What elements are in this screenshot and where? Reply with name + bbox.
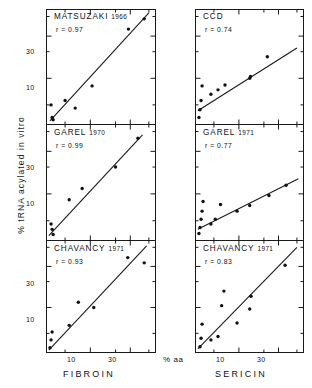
data-point: [249, 75, 252, 78]
data-point: [51, 118, 54, 121]
y-tick-label-10-mid-left: 10: [26, 200, 34, 207]
panel-author: CHAVANCY: [54, 244, 105, 253]
x-axis-unit-label: % aa: [163, 355, 184, 364]
data-point: [126, 256, 129, 259]
data-point: [68, 324, 71, 327]
data-point: [216, 88, 219, 91]
data-point: [143, 261, 146, 264]
data-point: [199, 99, 202, 102]
regression-line: [198, 179, 299, 230]
panel-author: MATSUZAKI: [54, 12, 108, 21]
x-tick-label-10-fibroin: 10: [67, 356, 75, 363]
data-point: [222, 289, 225, 292]
panel-year: 1971: [238, 129, 254, 136]
data-point: [50, 228, 53, 231]
data-point: [197, 232, 200, 235]
panel-r-garel-1970-fibroin: r = 0.99: [56, 142, 83, 149]
plots-svg: [0, 0, 312, 388]
data-point: [216, 335, 219, 338]
panel-r-garel-1971-sericin: r = 0.77: [205, 142, 232, 149]
panel-caption-matsuzaki-fibroin: MATSUZAKI1966: [54, 12, 127, 21]
data-point: [209, 93, 212, 96]
data-point: [235, 321, 238, 324]
data-point: [198, 345, 201, 348]
data-point: [114, 165, 117, 168]
column-title-fibroin: FIBROIN: [63, 369, 115, 379]
data-point: [50, 330, 53, 333]
panel-author: GAREL: [54, 128, 86, 137]
y-tick-label-30-mid-left: 30: [26, 164, 34, 171]
data-point: [200, 84, 203, 87]
data-point: [220, 304, 223, 307]
panel-author: GAREL: [203, 128, 235, 137]
data-point: [49, 103, 52, 106]
panel-year: 1971: [257, 245, 273, 252]
data-point: [201, 200, 204, 203]
data-point: [209, 338, 212, 341]
data-point: [198, 226, 201, 229]
x-tick-label-30-fibroin: 30: [108, 356, 116, 363]
y-tick-label-10-top-left: 10: [26, 84, 34, 91]
data-point: [63, 99, 66, 102]
panel-r-chavancy-1971-fibroin: r = 0.93: [56, 258, 83, 265]
data-point: [127, 27, 130, 30]
data-point: [283, 263, 286, 266]
figure-container: % tRNA acylated in vitro MATSUZAKI1966 r…: [0, 0, 312, 388]
data-point: [68, 198, 71, 201]
data-point: [209, 222, 212, 225]
panel-caption-garel-1971-sericin: GAREL1971: [203, 128, 254, 137]
data-point: [267, 194, 270, 197]
data-point: [248, 307, 251, 310]
data-point: [249, 295, 252, 298]
panel-caption-ccd-sericin: CCD: [203, 12, 226, 21]
x-tick-label-10-sericin: 10: [216, 356, 224, 363]
regression-line: [49, 135, 143, 236]
panel-caption-chavancy-1971-fibroin: CHAVANCY1971: [54, 244, 124, 253]
data-point: [197, 116, 200, 119]
data-point: [143, 17, 146, 20]
data-point: [49, 338, 52, 341]
panel-year: 1970: [89, 129, 105, 136]
data-point: [200, 209, 203, 212]
data-point: [248, 204, 251, 207]
data-point: [48, 346, 51, 349]
data-point: [80, 187, 83, 190]
data-point: [199, 336, 202, 339]
panel-r-matsuzaki-fibroin: r = 0.97: [56, 26, 83, 33]
data-point: [90, 84, 93, 87]
y-tick-label-10-bot-left: 10: [26, 316, 34, 323]
data-point: [223, 83, 226, 86]
data-point: [73, 106, 76, 109]
data-point: [51, 233, 54, 236]
panel-r-ccd-sericin: r = 0.74: [205, 26, 232, 33]
data-point: [199, 218, 202, 221]
data-point: [49, 222, 52, 225]
data-point: [284, 184, 287, 187]
data-point: [92, 306, 95, 309]
panel-year: 1971: [108, 245, 124, 252]
data-point: [219, 203, 222, 206]
y-tick-label-30-bot-left: 30: [26, 280, 34, 287]
regression-line: [198, 48, 297, 111]
y-tick-label-30-top-left: 30: [26, 48, 34, 55]
panel-year: 1966: [111, 13, 127, 20]
data-point: [198, 108, 201, 111]
data-point: [77, 301, 80, 304]
x-tick-label-30-sericin: 30: [257, 356, 265, 363]
panel-caption-garel-1970-fibroin: GAREL1970: [54, 128, 105, 137]
panel-caption-chavancy-1971-sericin: CHAVANCY1971: [203, 244, 273, 253]
data-point: [200, 322, 203, 325]
panel-author: CHAVANCY: [203, 244, 254, 253]
data-point: [214, 218, 217, 221]
panel-r-chavancy-1971-sericin: r = 0.83: [205, 258, 232, 265]
data-point: [136, 137, 139, 140]
panel-author: CCD: [203, 12, 223, 21]
column-title-sericin: SERICIN: [215, 369, 267, 379]
data-point: [266, 55, 269, 58]
data-point: [235, 209, 238, 212]
